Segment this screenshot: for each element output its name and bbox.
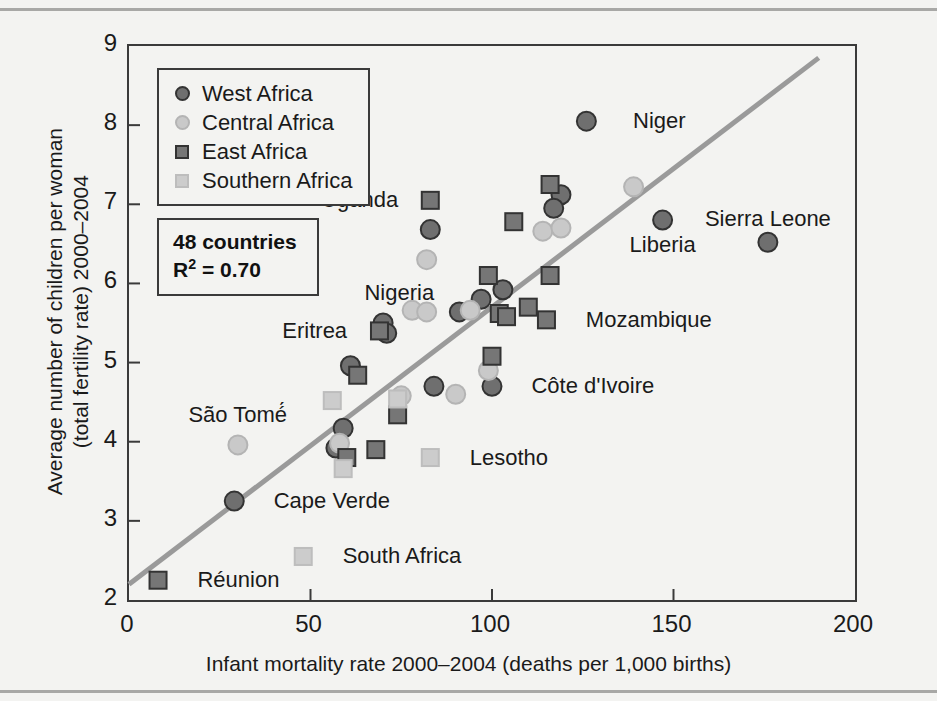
point-label: Nigeria xyxy=(364,280,434,306)
plot-area: NigerSierra LeoneLiberiaMozambiqueUganda… xyxy=(127,44,857,602)
x-tick-label: 150 xyxy=(642,610,702,638)
stats-annotation-box: 48 countries R2 = 0.70 xyxy=(157,218,319,296)
data-point[interactable] xyxy=(533,222,552,241)
y-axis-title: Average number of children per woman (to… xyxy=(42,62,93,562)
data-point[interactable] xyxy=(421,220,440,239)
legend-marker-west-africa-circle-icon-glyph xyxy=(175,86,190,101)
y-tick-label: 9 xyxy=(77,29,117,57)
data-point[interactable] xyxy=(542,176,559,193)
y-tick-label: 2 xyxy=(77,583,117,611)
stats-r-value: = 0.70 xyxy=(196,258,261,281)
x-tick-label: 0 xyxy=(97,610,157,638)
point-label: Eritrea xyxy=(282,318,347,344)
chart-legend: West Africa Central Africa East Africa S… xyxy=(157,68,370,206)
stats-r-prefix: R xyxy=(173,258,188,281)
stats-countries: 48 countries xyxy=(173,228,297,255)
data-point[interactable] xyxy=(624,177,643,196)
data-point[interactable] xyxy=(295,548,312,565)
data-point[interactable] xyxy=(544,199,563,218)
data-point[interactable] xyxy=(551,219,570,238)
chart-page: Average number of children per woman (to… xyxy=(0,0,937,701)
data-point[interactable] xyxy=(498,308,515,325)
y-tick-label: 6 xyxy=(77,266,117,294)
data-point[interactable] xyxy=(422,449,439,466)
y-tick-label: 4 xyxy=(77,425,117,453)
data-point[interactable] xyxy=(446,385,465,404)
data-point[interactable] xyxy=(324,392,341,409)
y-axis-title-line1: Average number of children per woman xyxy=(42,62,68,562)
y-axis-title-line2: (total fertility rate) 2000–2004 xyxy=(68,62,94,562)
point-label: Mozambique xyxy=(586,307,712,333)
point-label: South Africa xyxy=(343,543,462,569)
x-tick-label: 100 xyxy=(460,610,520,638)
data-point[interactable] xyxy=(228,435,247,454)
data-point[interactable] xyxy=(653,211,672,230)
x-axis-title: Infant mortality rate 2000–2004 (deaths … xyxy=(0,652,937,676)
data-point[interactable] xyxy=(542,267,559,284)
legend-marker-southern-africa-square-icon-glyph xyxy=(175,174,189,188)
bottom-divider xyxy=(0,690,937,693)
data-point[interactable] xyxy=(424,377,443,396)
legend-marker-central-africa-circle-icon xyxy=(170,115,194,130)
data-point[interactable] xyxy=(505,213,522,230)
legend-label-central-africa: Central Africa xyxy=(202,110,334,136)
legend-marker-east-africa-square-icon-glyph xyxy=(175,145,189,159)
point-label: Cape Verde xyxy=(274,488,390,514)
data-point[interactable] xyxy=(371,322,388,339)
point-label: Liberia xyxy=(630,232,696,258)
legend-item-central-africa[interactable]: Central Africa xyxy=(170,108,352,137)
legend-item-west-africa[interactable]: West Africa xyxy=(170,79,352,108)
data-point[interactable] xyxy=(389,390,406,407)
data-point[interactable] xyxy=(484,348,501,365)
data-point[interactable] xyxy=(349,367,366,384)
data-point[interactable] xyxy=(150,572,167,589)
y-tick-label: 3 xyxy=(77,504,117,532)
point-label: São Tomé́ xyxy=(188,402,287,428)
legend-marker-central-africa-circle-icon-glyph xyxy=(175,115,190,130)
legend-item-southern-africa[interactable]: Southern Africa xyxy=(170,166,352,195)
data-point[interactable] xyxy=(480,267,497,284)
point-label: Lesotho xyxy=(470,445,548,471)
data-point[interactable] xyxy=(367,441,384,458)
data-point[interactable] xyxy=(335,460,352,477)
data-point[interactable] xyxy=(422,192,439,209)
point-label: Niger xyxy=(633,108,686,134)
top-divider xyxy=(0,8,937,11)
legend-item-east-africa[interactable]: East Africa xyxy=(170,137,352,166)
data-point[interactable] xyxy=(225,492,244,511)
legend-label-east-africa: East Africa xyxy=(202,139,307,165)
y-tick-label: 7 xyxy=(77,187,117,215)
point-label: Côte d'Ivoire xyxy=(531,373,654,399)
legend-marker-southern-africa-square-icon xyxy=(170,174,194,188)
stats-r-exponent: 2 xyxy=(188,256,196,272)
data-point[interactable] xyxy=(758,233,777,252)
data-point[interactable] xyxy=(520,299,537,316)
y-tick-label: 5 xyxy=(77,346,117,374)
legend-marker-east-africa-square-icon xyxy=(170,145,194,159)
legend-label-southern-africa: Southern Africa xyxy=(202,168,352,194)
data-point[interactable] xyxy=(461,301,480,320)
point-label: Réunion xyxy=(197,567,279,593)
y-tick-label: 8 xyxy=(77,108,117,136)
data-point[interactable] xyxy=(538,311,555,328)
data-point[interactable] xyxy=(417,250,436,269)
x-tick-label: 50 xyxy=(279,610,339,638)
legend-label-west-africa: West Africa xyxy=(202,81,313,107)
point-label: Sierra Leone xyxy=(705,206,831,232)
legend-marker-west-africa-circle-icon xyxy=(170,86,194,101)
data-point[interactable] xyxy=(389,406,406,423)
x-tick-label: 200 xyxy=(823,610,883,638)
stats-r-squared: R2 = 0.70 xyxy=(173,255,297,283)
data-point[interactable] xyxy=(577,112,596,131)
